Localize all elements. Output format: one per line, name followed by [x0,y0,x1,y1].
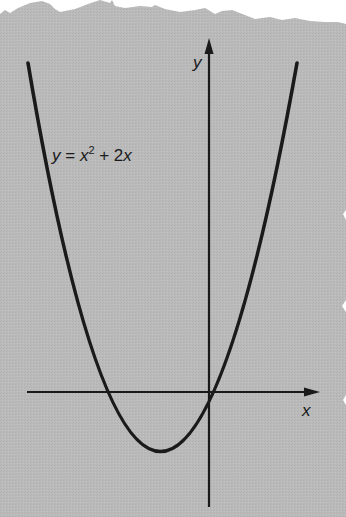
parabola-diagram: y x y = x2 + 2x [0,0,346,517]
x-axis-label: x [301,401,311,420]
y-axis-label: y [192,53,203,72]
